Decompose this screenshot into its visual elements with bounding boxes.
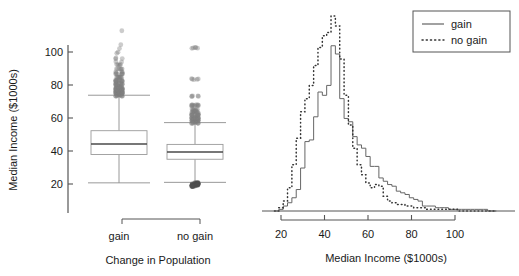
boxplot-y-axis: 20406080100 — [45, 45, 73, 213]
boxplot-box-no-gain — [164, 45, 226, 189]
boxplot-group-label-gain: gain — [109, 230, 130, 242]
histogram-x-tick-label: 60 — [362, 228, 374, 240]
boxplot-y-tick-label: 40 — [51, 145, 63, 157]
boxplot-panel: Median Income ($1000s) 20406080100 gain … — [0, 0, 258, 276]
histogram-x-tick-label: 20 — [275, 228, 287, 240]
histogram-svg: 20406080100 Median Income ($1000s) gain … — [258, 0, 519, 276]
histogram-panel: 20406080100 Median Income ($1000s) gain … — [258, 0, 519, 276]
histogram-x-tick-label: 40 — [318, 228, 330, 240]
boxplot-box-gain — [88, 28, 150, 182]
histogram-x-axis-label: Median Income ($1000s) — [325, 252, 447, 264]
boxplot-boxes — [88, 28, 226, 189]
figure-container: Median Income ($1000s) 20406080100 gain … — [0, 0, 519, 276]
legend-label-gain: gain — [451, 18, 472, 30]
histogram-legend: gain no gain — [413, 11, 510, 52]
histogram-x-tick-label: 80 — [405, 228, 417, 240]
histogram-curve-gain — [274, 46, 496, 211]
histogram-x-axis: 20406080100 — [275, 215, 464, 240]
boxplot-svg: Median Income ($1000s) 20406080100 gain … — [0, 0, 258, 276]
boxplot-y-tick-label: 20 — [51, 178, 63, 190]
boxplot-y-axis-label: Median Income ($1000s) — [7, 69, 19, 191]
boxplot-y-tick-label: 100 — [45, 46, 63, 58]
boxplot-y-tick-label: 80 — [51, 79, 63, 91]
boxplot-x-axis-label: Change in Population — [105, 254, 210, 266]
boxplot-category-bracket — [122, 219, 200, 224]
boxplot-y-tick-label: 60 — [51, 112, 63, 124]
boxplot-group-label-no-gain: no gain — [177, 230, 213, 242]
legend-label-no-gain: no gain — [451, 34, 487, 46]
histogram-x-tick-label: 100 — [446, 228, 464, 240]
